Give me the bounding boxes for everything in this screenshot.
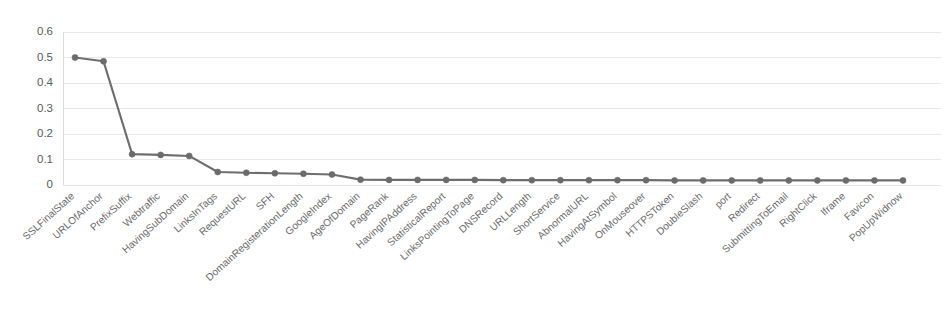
y-axis-tick-label: 0.2 [37, 127, 53, 139]
data-point-marker [529, 177, 535, 183]
data-point-marker [243, 170, 249, 176]
data-point-marker [729, 177, 735, 183]
data-point-marker [700, 177, 706, 183]
data-point-marker [415, 177, 421, 183]
data-point-marker [358, 177, 364, 183]
y-axis-tick-label: 0.5 [37, 51, 53, 63]
data-point-marker [72, 55, 78, 61]
x-axis-tick-label: SFH [254, 190, 277, 212]
data-series-line [75, 58, 903, 181]
data-point-marker [900, 177, 906, 183]
y-axis-tick-label: 0.6 [37, 25, 53, 37]
y-axis-tick-label: 0.4 [37, 76, 54, 88]
data-point-markers [72, 55, 906, 184]
series-line [75, 58, 903, 181]
data-point-marker [643, 177, 649, 183]
data-point-marker [672, 177, 678, 183]
x-axis-tick-labels: SSLFinalStateURLOfAnchorPrefixSuffixWebt… [21, 190, 905, 283]
y-axis-tick-labels: 00.10.20.30.40.50.6 [37, 25, 54, 190]
data-point-marker [101, 58, 107, 64]
x-axis-tick-label: port [713, 190, 734, 210]
data-point-marker [586, 177, 592, 183]
data-point-marker [443, 177, 449, 183]
data-point-marker [186, 153, 192, 159]
y-axis-tick-label: 0.1 [37, 153, 53, 165]
y-axis-tick-label: 0.3 [37, 102, 53, 114]
data-point-marker [786, 177, 792, 183]
data-point-marker [472, 177, 478, 183]
data-point-marker [129, 151, 135, 157]
data-point-marker [871, 177, 877, 183]
data-point-marker [272, 170, 278, 176]
data-point-marker [614, 177, 620, 183]
data-point-marker [500, 177, 506, 183]
x-axis-tick-label: PopUpWidnow [847, 190, 905, 244]
data-point-marker [329, 172, 335, 178]
gridlines [63, 32, 941, 185]
y-axis-tick-label: 0 [47, 178, 53, 190]
data-point-marker [757, 177, 763, 183]
data-point-marker [300, 171, 306, 177]
data-point-marker [557, 177, 563, 183]
data-point-marker [158, 152, 164, 158]
feature-importance-chart: 00.10.20.30.40.50.6 SSLFinalStateURLOfAn… [0, 0, 951, 319]
data-point-marker [814, 177, 820, 183]
data-point-marker [215, 169, 221, 175]
data-point-marker [843, 177, 849, 183]
data-point-marker [386, 177, 392, 183]
chart-canvas: 00.10.20.30.40.50.6 SSLFinalStateURLOfAn… [0, 0, 951, 319]
